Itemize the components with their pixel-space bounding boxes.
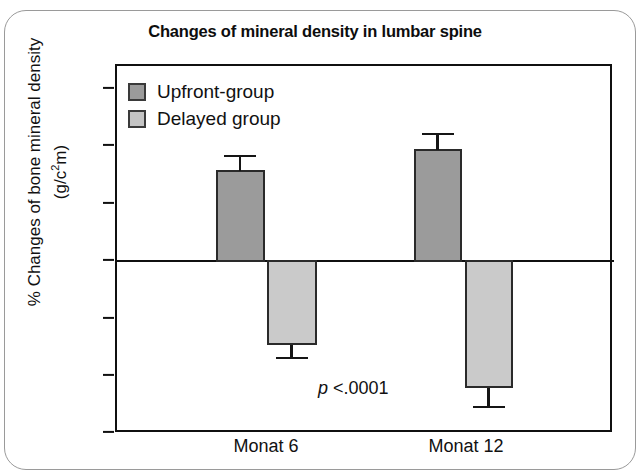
p-value-text: <.0001 <box>328 378 389 398</box>
legend-item-upfront-group[interactable]: Upfront-group <box>128 78 281 105</box>
chart-legend: Upfront-group Delayed group <box>128 78 281 132</box>
x-tick-label-monat-6: Monat 6 <box>233 436 298 457</box>
x-tick-label-monat-12: Monat 12 <box>428 436 503 457</box>
y-tick-mark-3 <box>103 87 114 89</box>
error-bar-cap-upfront-monat-6 <box>224 155 256 157</box>
legend-swatch-icon-upfront <box>128 83 146 101</box>
y-axis-label-units-post: m) <box>51 145 70 165</box>
bar-upfront-monat-12[interactable] <box>414 149 462 263</box>
y-axis-label-units-superscript: 2 <box>49 165 61 171</box>
p-value-annotation: p <.0001 <box>318 378 389 399</box>
legend-swatch-icon-delayed <box>128 110 146 128</box>
y-axis-label-units-pre: (g/c <box>51 171 70 199</box>
error-bar-stem-upfront-monat-6 <box>239 155 241 171</box>
error-bar-cap-delayed-monat-12 <box>473 406 505 408</box>
error-bar-cap-upfront-monat-12 <box>422 133 454 135</box>
zero-baseline <box>117 260 614 263</box>
y-axis-label-line1: % Changes of bone mineral density <box>25 7 45 337</box>
legend-label-upfront-group: Upfront-group <box>157 82 274 101</box>
bar-delayed-monat-12[interactable] <box>465 260 513 388</box>
y-tick-mark-0 <box>103 259 114 261</box>
y-tick-mark-2 <box>103 144 114 146</box>
error-bar-stem-upfront-monat-12 <box>436 133 438 150</box>
legend-item-delayed-group[interactable]: Delayed group <box>128 105 281 132</box>
y-axis-label: % Changes of bone mineral density (g/c2m… <box>25 7 69 337</box>
bar-delayed-monat-6[interactable] <box>267 260 317 345</box>
legend-label-delayed-group: Delayed group <box>157 109 281 128</box>
y-tick-mark-1 <box>103 202 114 204</box>
error-bar-cap-delayed-monat-6 <box>276 357 308 359</box>
error-bar-stem-delayed-monat-12 <box>487 388 489 408</box>
y-tick-mark-m2 <box>103 374 114 376</box>
y-axis-label-line2: (g/c2m) <box>45 7 71 337</box>
y-tick-mark-m1 <box>103 317 114 319</box>
bar-upfront-monat-6[interactable] <box>216 170 265 263</box>
chart-title: Changes of mineral density in lumbar spi… <box>0 22 630 41</box>
p-value-symbol: p <box>318 378 328 398</box>
y-tick-mark-m3 <box>103 431 114 433</box>
